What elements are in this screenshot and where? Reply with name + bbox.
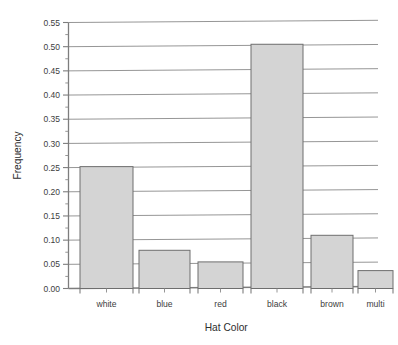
bar-brown[interactable] bbox=[311, 235, 353, 288]
bar-rect-black[interactable] bbox=[251, 44, 303, 288]
x-axis-label-white: white bbox=[95, 299, 116, 309]
x-axis-label-blue: blue bbox=[156, 299, 172, 309]
y-tick-label-0.25: 0.25 bbox=[43, 163, 60, 173]
bar-white[interactable] bbox=[80, 167, 133, 289]
gridline-0.35 bbox=[69, 117, 379, 119]
y-tick-label-0.15: 0.15 bbox=[43, 211, 60, 221]
gridline-0.55 bbox=[69, 20, 379, 22]
bar-chart-figure: 0.000.050.100.150.200.250.300.350.400.45… bbox=[0, 0, 398, 345]
gridline-0.30 bbox=[69, 141, 379, 143]
bar-rect-white[interactable] bbox=[80, 167, 133, 289]
bar-black[interactable] bbox=[251, 44, 303, 288]
y-tick-label-0.30: 0.30 bbox=[43, 139, 60, 149]
gridline-0.40 bbox=[69, 93, 379, 95]
bar-multi[interactable] bbox=[358, 271, 393, 289]
y-tick-label-0.55: 0.55 bbox=[43, 18, 60, 28]
x-axis-label-multi: multi bbox=[366, 299, 384, 309]
y-tick-label-0.20: 0.20 bbox=[43, 187, 60, 197]
gridline-0.50 bbox=[69, 44, 379, 46]
y-axis-title: Frequency bbox=[12, 131, 23, 180]
y-tick-label-0.35: 0.35 bbox=[43, 114, 60, 124]
x-axis-title: Hat Color bbox=[205, 322, 249, 333]
y-tick-label-0.40: 0.40 bbox=[43, 90, 60, 100]
y-tick-label-0.00: 0.00 bbox=[43, 284, 60, 294]
bar-rect-multi[interactable] bbox=[358, 271, 393, 289]
x-axis-label-red: red bbox=[214, 299, 227, 309]
gridline-0.45 bbox=[69, 69, 379, 71]
bar-blue[interactable] bbox=[139, 250, 190, 288]
chart-canvas: 0.000.050.100.150.200.250.300.350.400.45… bbox=[0, 0, 398, 345]
bar-rect-brown[interactable] bbox=[311, 235, 353, 288]
y-tick-label-0.05: 0.05 bbox=[43, 259, 60, 269]
bar-red[interactable] bbox=[198, 262, 243, 289]
x-axis-label-brown: brown bbox=[320, 299, 344, 309]
x-axis-label-black: black bbox=[267, 299, 288, 309]
bar-rect-blue[interactable] bbox=[139, 250, 190, 288]
y-tick-label-0.50: 0.50 bbox=[43, 42, 60, 52]
y-tick-label-0.10: 0.10 bbox=[43, 235, 60, 245]
bar-rect-red[interactable] bbox=[198, 262, 243, 289]
y-tick-label-0.45: 0.45 bbox=[43, 66, 60, 76]
